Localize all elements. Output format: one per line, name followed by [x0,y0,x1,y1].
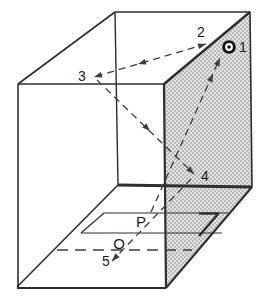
floor-back-edge [118,185,252,187]
diagram-svg: 12345PO [0,0,264,302]
bullseye-center-dot [227,45,231,49]
label-point-3: 3 [78,68,86,84]
diagram-canvas: 12345PO [0,0,264,302]
label-point-5: 5 [102,253,110,269]
label-point-4: 4 [201,168,209,184]
label-point-P: P [136,213,146,230]
label-point-O: O [113,235,125,252]
label-point-2: 2 [197,24,205,40]
bullseye-marker [222,40,236,54]
label-point-1: 1 [239,39,247,55]
